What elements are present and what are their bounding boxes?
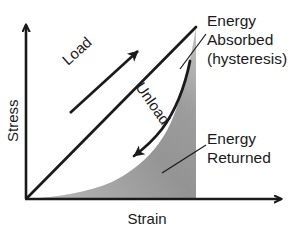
load-direction-arrow: [70, 51, 138, 113]
energy-returned-line-1: Energy: [207, 130, 256, 147]
unload-label: Unload: [133, 79, 174, 128]
stress-strain-hysteresis-figure: Stress Strain Load Unload Energy Absorbe…: [0, 0, 292, 231]
energy-returned-annotation: Energy Returned: [207, 130, 271, 166]
energy-returned-line-2: Returned: [207, 149, 271, 166]
energy-absorbed-annotation: Energy Absorbed (hysteresis): [207, 12, 287, 67]
y-axis-label: Stress: [4, 99, 21, 142]
figure-canvas: Stress Strain Load Unload Energy Absorbe…: [0, 0, 292, 231]
energy-absorbed-line-2: Absorbed: [207, 31, 273, 48]
load-label: Load: [59, 33, 95, 68]
energy-absorbed-line-1: Energy: [207, 12, 256, 29]
x-axis-label: Strain: [127, 210, 166, 227]
energy-absorbed-line-3: (hysteresis): [207, 50, 287, 67]
